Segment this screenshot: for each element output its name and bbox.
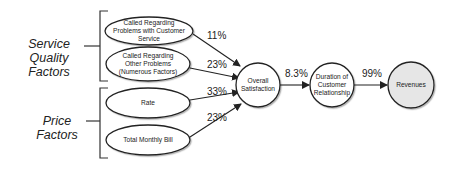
price-factors-bracket [86, 88, 108, 158]
factor-label-customer-service: Called Regarding Problems with Customer … [112, 22, 186, 40]
group-label-service-quality: Service Quality Factors [14, 37, 84, 79]
label-duration-relationship: Duration of Customer Relationship [313, 72, 351, 98]
weight-other-problems: 23% [207, 59, 227, 70]
factor-label-total-monthly-bill: Total Monthly Bill [112, 135, 184, 145]
weight-customer-service: 11% [207, 30, 226, 41]
weight-total-monthly-bill: 23% [207, 112, 227, 123]
diagram-canvas [0, 0, 456, 171]
weight-rate: 33% [207, 86, 227, 97]
factor-label-other-problems: Called Regarding Other Problems (Numerou… [118, 51, 178, 77]
weight-satisfaction-to-duration: 8.3% [285, 68, 308, 79]
label-revenues: Revenues [391, 80, 431, 90]
factor-label-rate: Rate [118, 98, 178, 108]
group-label-price-factors: Price Factors [26, 114, 88, 142]
service-quality-bracket [84, 11, 108, 81]
label-overall-satisfaction: Overall Satisfaction [240, 76, 276, 94]
weight-duration-to-revenues: 99% [362, 68, 382, 79]
